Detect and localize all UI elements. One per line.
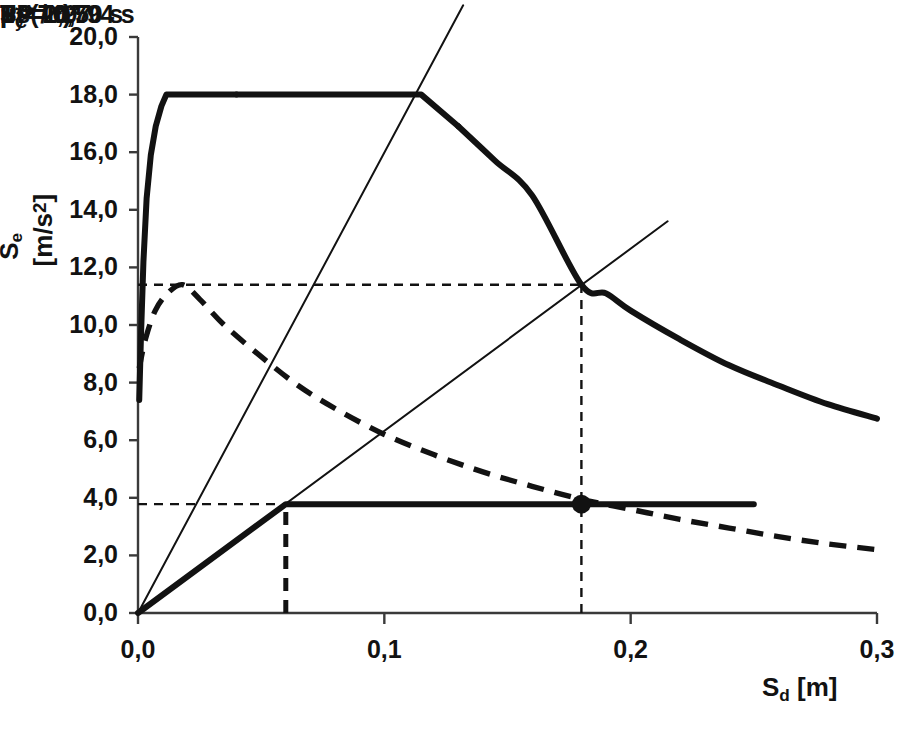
y-tick-label-4: 8,0	[34, 368, 118, 397]
x-tick-label-2: 0,2	[591, 635, 671, 664]
y-tick-label-8: 16,0	[34, 137, 118, 166]
x-axis-title-symbol: S	[762, 672, 779, 702]
y-tick-label-5: 10,0	[34, 310, 118, 339]
x-tick-label-0: 0,0	[98, 635, 178, 664]
x-tick-label-3: 0,3	[837, 635, 909, 664]
figure-caption-clipped	[0, 714, 909, 730]
y-axis-title-symbol: S	[0, 243, 24, 260]
y-tick-label-0: 0,0	[34, 598, 118, 627]
y-tick-label-10: 20,0	[34, 22, 118, 51]
x-tick-label-1: 0,1	[344, 635, 424, 664]
adrs-chart-canvas	[0, 0, 909, 730]
y-tick-label-2: 4,0	[34, 483, 118, 512]
performance-point-marker[interactable]	[572, 495, 591, 514]
chart-figure: Se [m/s2] Sd [m] TC = 0,50 s T* = 0,794 …	[0, 0, 909, 730]
y-tick-label-9: 18,0	[34, 80, 118, 109]
x-axis-title-subscript: d	[779, 685, 789, 705]
y-tick-label-3: 6,0	[34, 425, 118, 454]
mu-1-plateau-branch	[237, 95, 459, 127]
y-axis-title-subscript: e	[6, 233, 26, 243]
x-axis-title-unit: [m]	[790, 672, 838, 702]
y-tick-label-7: 14,0	[34, 195, 118, 224]
mu-1-descending-branch	[458, 126, 877, 418]
y-tick-label-6: 12,0	[34, 252, 118, 281]
mu-1-ascending-branch	[139, 95, 236, 400]
performance-point-label: PP	[0, 0, 33, 29]
x-axis-title: Sd [m]	[762, 672, 838, 706]
mu-297-inelastic-spectrum	[139, 285, 877, 550]
bilinear-capacity-curve	[138, 504, 754, 613]
y-tick-label-1: 2,0	[34, 540, 118, 569]
